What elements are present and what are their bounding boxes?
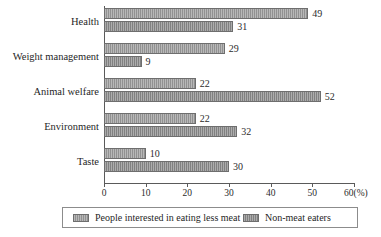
legend-label-series-a: People interested in eating less meat	[95, 213, 240, 223]
legend-item-series-b: Non-meat eaters	[243, 208, 331, 227]
bar-value-label: 10	[150, 148, 160, 158]
bar-series-a	[104, 43, 225, 54]
chart-legend: People interested in eating less meat No…	[62, 207, 358, 228]
x-axis-tick-label: 40	[266, 189, 276, 199]
category-label: Taste	[0, 157, 99, 168]
bar-group: 4931	[104, 8, 354, 43]
x-axis-tick-mark	[104, 183, 105, 187]
bar-row: 32	[104, 126, 354, 137]
bar-value-label: 29	[229, 43, 239, 53]
bar-row: 29	[104, 43, 354, 54]
bar-group: 2252	[104, 78, 354, 113]
bar-chart: 4931299225222321030 HealthWeight managem…	[0, 0, 381, 237]
category-label: Weight management	[0, 52, 99, 63]
x-axis-tick-mark	[146, 183, 147, 187]
legend-swatch-icon-series-b	[243, 214, 259, 222]
bar-value-label: 49	[312, 8, 322, 18]
category-label: Animal welfare	[0, 87, 99, 98]
bar-value-label: 22	[200, 113, 210, 123]
bar-series-a	[104, 78, 196, 89]
bar-value-label: 32	[241, 126, 251, 136]
bar-row: 10	[104, 148, 354, 159]
bar-row: 22	[104, 113, 354, 124]
x-axis-tick-label: 30	[224, 189, 234, 199]
legend-swatch-icon-series-a	[73, 214, 89, 222]
bar-row: 9	[104, 56, 354, 67]
x-axis-tick-mark	[312, 183, 313, 187]
bar-series-b	[104, 21, 233, 32]
bar-series-a	[104, 8, 308, 19]
x-axis-tick-mark	[271, 183, 272, 187]
x-axis-tick-label: 20	[183, 189, 193, 199]
bar-row: 49	[104, 8, 354, 19]
bar-group: 1030	[104, 148, 354, 183]
legend-label-series-b: Non-meat eaters	[265, 213, 331, 223]
bar-series-b	[104, 56, 142, 67]
bar-row: 52	[104, 91, 354, 102]
bar-series-b	[104, 161, 229, 172]
bar-value-label: 30	[233, 161, 243, 171]
x-axis-tick-label: 0	[102, 189, 107, 199]
bar-value-label: 22	[200, 78, 210, 88]
x-axis-tick-mark	[229, 183, 230, 187]
bar-value-label: 31	[237, 21, 247, 31]
x-axis-tick-label: 50	[308, 189, 318, 199]
bar-series-a	[104, 113, 196, 124]
bar-group: 2232	[104, 113, 354, 148]
category-label: Health	[0, 17, 99, 28]
plot-area: 4931299225222321030	[104, 6, 354, 181]
category-label: Environment	[0, 122, 99, 133]
bar-group: 299	[104, 43, 354, 78]
bar-series-b	[104, 91, 321, 102]
bar-value-label: 9	[146, 56, 151, 66]
legend-item-series-a: People interested in eating less meat	[73, 208, 240, 227]
bar-row: 30	[104, 161, 354, 172]
x-axis-tick-mark	[354, 183, 355, 187]
bar-series-b	[104, 126, 237, 137]
bar-row: 22	[104, 78, 354, 89]
bar-row: 31	[104, 21, 354, 32]
x-axis-tick-label: 10	[141, 189, 151, 199]
bar-value-label: 52	[325, 91, 335, 101]
x-axis-tick-mark	[187, 183, 188, 187]
x-axis-tick-label: 60(%)	[344, 189, 368, 199]
bar-series-a	[104, 148, 146, 159]
